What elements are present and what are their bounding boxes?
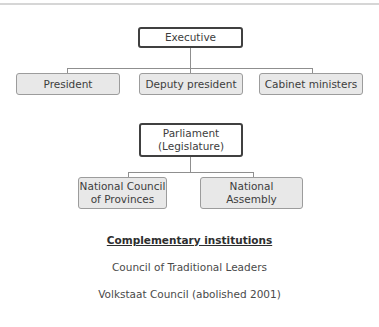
legislature-label: (Legislature)	[158, 140, 224, 153]
national-assembly-node: National Assembly	[200, 177, 303, 209]
top-divider	[0, 3, 379, 5]
ncop-label-line1: National Council	[80, 180, 166, 193]
executive-node: Executive	[138, 27, 243, 48]
executive-label: Executive	[165, 31, 216, 44]
ncop-label-line2: of Provinces	[91, 193, 155, 206]
na-label-line1: National	[230, 180, 274, 193]
president-node: President	[16, 73, 120, 95]
na-label-line2: Assembly	[226, 193, 277, 206]
complementary-heading: Complementary institutions	[0, 234, 379, 246]
ncop-node: National Council of Provinces	[78, 177, 167, 209]
parliament-connector-horizontal	[128, 172, 254, 173]
parliament-connector-vertical	[190, 157, 191, 172]
complementary-item: Council of Traditional Leaders	[0, 261, 379, 273]
deputy-president-node: Deputy president	[139, 73, 243, 95]
executive-connector-vertical	[190, 48, 191, 68]
cabinet-ministers-label: Cabinet ministers	[265, 78, 357, 91]
complementary-item: Volkstaat Council (abolished 2001)	[0, 288, 379, 300]
president-label: President	[44, 78, 93, 91]
parliament-node: Parliament (Legislature)	[139, 123, 243, 157]
cabinet-ministers-node: Cabinet ministers	[259, 73, 363, 95]
deputy-president-label: Deputy president	[145, 78, 236, 91]
parliament-label: Parliament	[163, 127, 219, 140]
